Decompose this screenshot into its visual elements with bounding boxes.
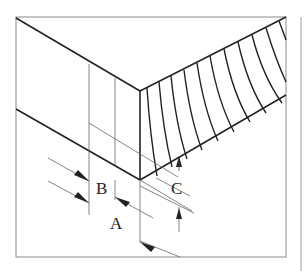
endgrain-top-edge	[140, 17, 286, 91]
end-grain-lines	[147, 21, 286, 176]
wood-joint-diagram: B A C	[0, 0, 306, 271]
arrow-a-bottom	[140, 242, 155, 252]
block-bottom-edge	[16, 109, 140, 180]
arrow-c-bottom	[176, 208, 182, 219]
arrow-a-top	[115, 197, 130, 207]
arrow-b-bottom	[74, 192, 89, 203]
label-a: A	[110, 214, 123, 233]
block-top-edge	[16, 18, 140, 91]
dimension-arrows	[74, 156, 182, 252]
label-b: B	[96, 179, 107, 198]
label-c: C	[171, 179, 182, 198]
